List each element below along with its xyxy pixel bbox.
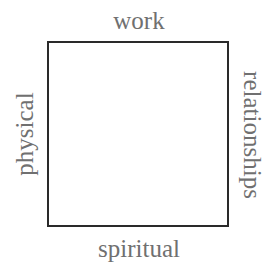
label-relationships: relationships — [240, 71, 265, 199]
label-physical: physical — [12, 92, 37, 175]
label-work: work — [0, 8, 270, 33]
life-balance-square — [47, 41, 229, 227]
label-spiritual: spiritual — [0, 236, 270, 261]
